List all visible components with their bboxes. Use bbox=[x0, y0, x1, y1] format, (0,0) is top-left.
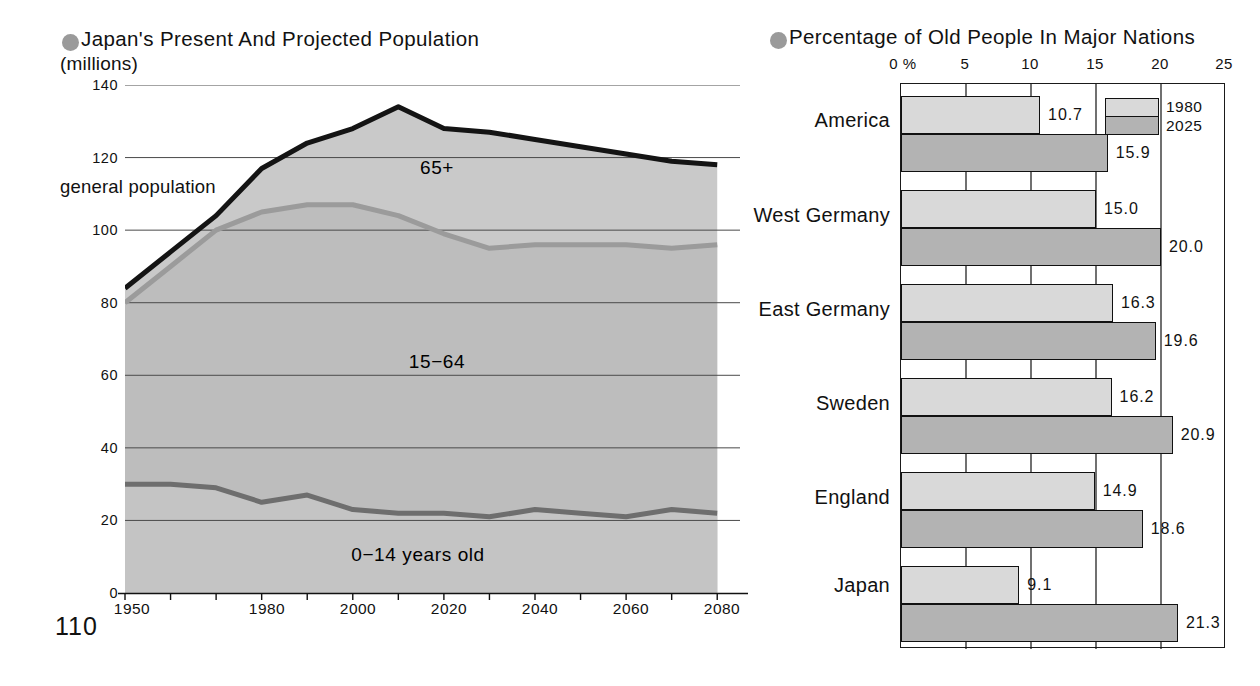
bar-value-east-germany-2025: 19.6 bbox=[1164, 332, 1199, 350]
y-tick-60: 60 bbox=[101, 367, 118, 383]
legend-swatches bbox=[1105, 98, 1159, 135]
bar-value-east-germany-1980: 16.3 bbox=[1121, 294, 1156, 312]
legend-label-1980: 1980 bbox=[1166, 98, 1202, 117]
right-chart-title: Percentage of Old People In Major Nation… bbox=[770, 26, 1195, 49]
x-tick-2060: 2060 bbox=[613, 600, 649, 618]
category-label-england: England bbox=[770, 486, 890, 509]
bar-value-america-2025: 15.9 bbox=[1116, 144, 1151, 162]
category-label-sweden: Sweden bbox=[770, 392, 890, 415]
general-population-label: general population bbox=[60, 176, 216, 198]
page-number: 110 bbox=[55, 612, 98, 641]
band-label-15-64: 15−64 bbox=[409, 351, 465, 373]
bar-value-japan-2025: 21.3 bbox=[1186, 614, 1221, 632]
bar-sweden-2025 bbox=[901, 416, 1173, 454]
bar-england-2025 bbox=[901, 510, 1143, 548]
bar-value-sweden-1980: 16.2 bbox=[1120, 388, 1155, 406]
bar-sweden-1980 bbox=[901, 378, 1112, 416]
bar-west-germany-1980 bbox=[901, 190, 1096, 228]
y-tick-0: 0 bbox=[109, 585, 118, 601]
bar-west-germany-2025 bbox=[901, 228, 1161, 266]
x-tick-2020: 2020 bbox=[431, 600, 467, 618]
left-chart-title: Japan's Present And Projected Population bbox=[62, 28, 479, 51]
bar-america-1980 bbox=[901, 96, 1040, 134]
rx-tick-25: 25 bbox=[1215, 55, 1233, 72]
bar-east-germany-1980 bbox=[901, 284, 1113, 322]
band-label-65plus: 65+ bbox=[420, 157, 454, 179]
bar-america-2025 bbox=[901, 134, 1108, 172]
japan-population-chart-panel: Japan's Present And Projected Population… bbox=[0, 0, 770, 686]
left-x-tick-labels: 1950 1980 2000 2020 2040 2060 2080 bbox=[125, 595, 740, 625]
y-tick-40: 40 bbox=[101, 440, 118, 456]
bar-value-west-germany-2025: 20.0 bbox=[1169, 238, 1204, 256]
bullet-icon bbox=[770, 32, 787, 49]
legend-labels: 1980 2025 bbox=[1166, 98, 1202, 136]
bar-value-west-germany-1980: 15.0 bbox=[1104, 200, 1139, 218]
category-label-east-germany: East Germany bbox=[740, 298, 890, 321]
x-tick-2000: 2000 bbox=[340, 600, 376, 618]
bar-japan-2025 bbox=[901, 604, 1178, 642]
x-tick-2080: 2080 bbox=[704, 600, 740, 618]
category-label-america: America bbox=[770, 109, 890, 132]
y-tick-80: 80 bbox=[101, 295, 118, 311]
x-tick-2040: 2040 bbox=[522, 600, 558, 618]
bar-value-england-1980: 14.9 bbox=[1103, 482, 1138, 500]
bullet-icon bbox=[62, 34, 79, 51]
bar-value-japan-1980: 9.1 bbox=[1027, 576, 1052, 594]
legend: 1980 2025 bbox=[1105, 98, 1202, 136]
rx-tick-10: 10 bbox=[1021, 55, 1039, 72]
rx-tick-0: 0 % bbox=[889, 55, 916, 72]
category-label-japan: Japan bbox=[770, 574, 890, 597]
y-tick-100: 100 bbox=[92, 222, 118, 238]
left-chart-title-text: Japan's Present And Projected Population bbox=[81, 28, 479, 51]
bar-value-america-1980: 10.7 bbox=[1048, 106, 1083, 124]
left-y-axis: 140 120 100 80 60 40 20 0 bbox=[60, 85, 118, 593]
bar-value-sweden-2025: 20.9 bbox=[1181, 426, 1216, 444]
bar-east-germany-2025 bbox=[901, 322, 1156, 360]
bar-value-england-2025: 18.6 bbox=[1151, 520, 1186, 538]
band-label-0-14: 0−14 years old bbox=[351, 544, 485, 566]
rx-tick-5: 5 bbox=[961, 55, 970, 72]
right-chart-frame: 10.715.915.020.016.319.616.220.914.918.6… bbox=[900, 83, 1225, 648]
y-tick-20: 20 bbox=[101, 512, 118, 528]
rx-tick-20: 20 bbox=[1151, 55, 1169, 72]
bar-england-1980 bbox=[901, 472, 1095, 510]
right-chart-title-text: Percentage of Old People In Major Nation… bbox=[789, 26, 1195, 49]
legend-swatch-1980 bbox=[1106, 99, 1158, 117]
category-label-west-germany: West Germany bbox=[740, 204, 890, 227]
x-tick-1980: 1980 bbox=[249, 600, 285, 618]
y-tick-140: 140 bbox=[92, 77, 118, 93]
rx-tick-15: 15 bbox=[1086, 55, 1104, 72]
left-chart-subtitle: (millions) bbox=[60, 53, 138, 75]
legend-swatch-2025 bbox=[1106, 117, 1158, 134]
x-tick-1950: 1950 bbox=[114, 600, 150, 618]
legend-label-2025: 2025 bbox=[1166, 117, 1202, 136]
y-tick-120: 120 bbox=[92, 150, 118, 166]
bar-japan-1980 bbox=[901, 566, 1019, 604]
